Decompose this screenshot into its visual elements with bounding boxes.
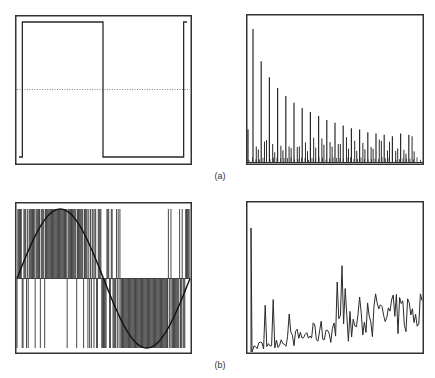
pdm-sine-plot: [15, 202, 192, 354]
square-wave-spectrum-plot: [246, 14, 424, 165]
panel-b-pdm-sine: [15, 202, 192, 354]
pdm-spectrum-plot: [246, 201, 424, 354]
square-wave-line: [19, 22, 187, 157]
panel-b-spectrum: [246, 201, 424, 354]
spectrum-line: [251, 228, 422, 352]
square-wave-plot: [15, 15, 192, 165]
caption-b: (b): [200, 360, 240, 370]
panel-a-spectrum: [246, 14, 424, 165]
panel-a-square-wave: [15, 15, 192, 165]
caption-a: (a): [200, 171, 240, 181]
